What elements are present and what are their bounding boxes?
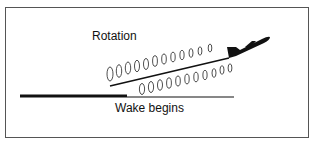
wake-begins-label: Wake begins: [115, 101, 184, 115]
wake-turbulence-diagram: [0, 0, 317, 141]
airplane-icon: [227, 37, 270, 58]
upper-wake-vortices: [107, 44, 212, 81]
rotation-label: Rotation: [92, 29, 137, 43]
